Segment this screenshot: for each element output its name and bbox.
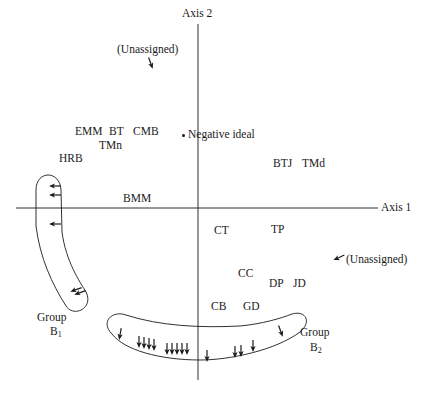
- group-subscript: 2: [318, 346, 322, 355]
- negative-ideal-point: [182, 134, 185, 137]
- ideal-vector-arrow-icon: [49, 192, 61, 197]
- ideal-vector-arrow-icon: [117, 328, 124, 341]
- ideal-vector-arrow-icon: [276, 325, 285, 338]
- stimulus-label: BTJ: [273, 158, 292, 170]
- stimulus-label: TMn: [99, 140, 122, 152]
- stimulus-label: BMM: [123, 193, 151, 205]
- group-label: Group: [37, 312, 66, 324]
- stimulus-label: CC: [238, 268, 253, 280]
- ideal-vector-arrow-icon: [174, 343, 179, 355]
- stimulus-label: CT: [214, 225, 229, 237]
- ideal-vector-arrow-icon: [250, 340, 255, 352]
- map-canvas: [0, 0, 422, 403]
- stimulus-label: TP: [271, 224, 284, 236]
- ideal-vector-arrow-icon: [184, 343, 189, 355]
- unassigned-arrow-icon: [332, 253, 345, 263]
- ideal-vector-arrow-icon: [151, 339, 156, 351]
- group-id: B1: [50, 326, 62, 339]
- stimulus-label: CB: [211, 301, 226, 313]
- stimulus-label: CMB: [133, 126, 159, 138]
- negative-ideal-label: Negative ideal: [188, 129, 255, 141]
- ideal-vector-arrow-icon: [49, 183, 61, 188]
- ideal-vector-arrows: [49, 57, 345, 362]
- ideal-vector-arrow-icon: [179, 343, 184, 355]
- stimulus-label: HRB: [59, 153, 83, 165]
- group-outlines: [36, 175, 306, 360]
- axis-1-label: Axis 1: [381, 202, 411, 214]
- ideal-vector-arrow-icon: [164, 343, 169, 355]
- stimulus-label: TMd: [302, 158, 325, 170]
- stimulus-label: EMM: [75, 126, 102, 138]
- group-letter: B: [310, 341, 318, 353]
- group-letter: B: [50, 325, 58, 337]
- ideal-vector-arrow-icon: [136, 336, 141, 348]
- group-b1-outline: [36, 175, 88, 311]
- unassigned-label: (Unassigned): [117, 44, 178, 56]
- group-id: B2: [310, 342, 322, 355]
- stimulus-label: DP: [269, 278, 284, 290]
- ideal-vector-arrow-icon: [146, 338, 151, 350]
- group-subscript: 1: [58, 330, 62, 339]
- stimulus-label: JD: [293, 278, 306, 290]
- unassigned-label: (Unassigned): [346, 254, 407, 266]
- axis-2-label: Axis 2: [182, 8, 212, 20]
- perceptual-map: Axis 1 Axis 2 Negative ideal EMMBTCMBTMn…: [0, 0, 422, 403]
- ideal-vector-arrow-icon: [141, 337, 146, 349]
- unassigned-arrow-icon: [146, 57, 155, 70]
- ideal-vector-arrow-icon: [49, 221, 61, 226]
- group-label: Group: [300, 327, 329, 339]
- ideal-vector-arrow-icon: [169, 343, 174, 355]
- stimulus-label: BT: [109, 126, 124, 138]
- stimulus-label: GD: [243, 301, 260, 313]
